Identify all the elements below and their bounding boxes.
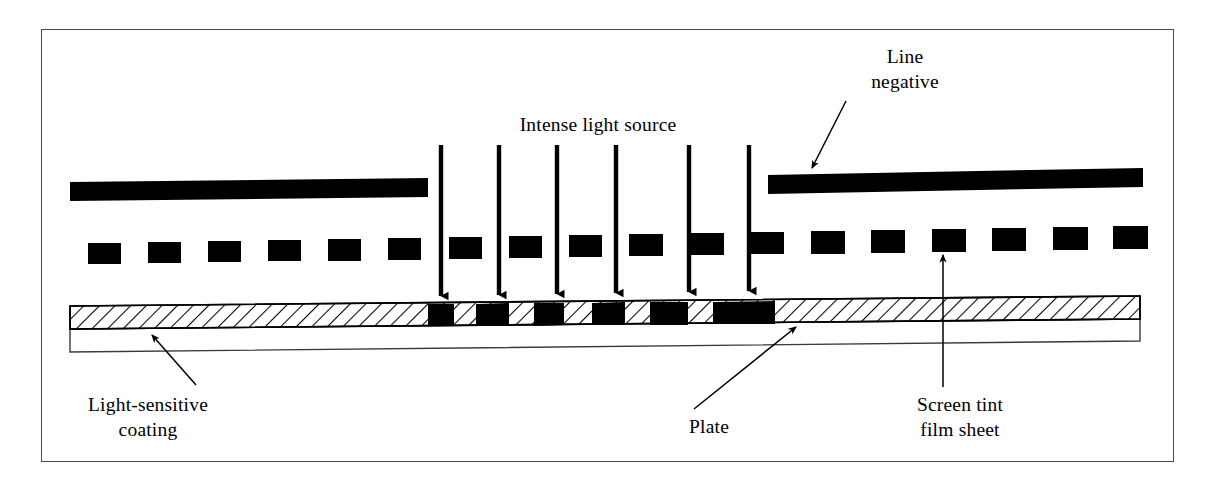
exposed-segment xyxy=(592,302,625,325)
screen-tint-dash xyxy=(569,235,602,257)
screen-tint-dash xyxy=(208,241,241,262)
label-line-negative: Line negative xyxy=(830,44,980,94)
exposed-segment xyxy=(650,302,688,325)
line-negative-bar-right xyxy=(768,168,1143,194)
light-ray-group xyxy=(441,145,749,296)
label-screen-tint-film-sheet: Screen tint film sheet xyxy=(870,392,1050,442)
diagram-canvas: Intense light source Line negative Light… xyxy=(0,0,1213,499)
line-negative-leader xyxy=(812,101,846,168)
screen-tint-dash xyxy=(811,231,845,254)
exposed-segment xyxy=(428,304,454,326)
screen-tint-dash xyxy=(268,240,301,261)
screen-tint-dash xyxy=(629,234,663,256)
screen-tint-dash xyxy=(88,243,121,264)
screen-tint-dash xyxy=(509,236,542,258)
screen-tint-dash xyxy=(449,237,482,259)
screen-tint-dash xyxy=(1053,227,1088,250)
exposed-segment xyxy=(534,303,564,326)
line-negative-group xyxy=(70,168,1143,201)
screen-tint-dash xyxy=(992,228,1026,251)
screen-tint-dash xyxy=(148,242,181,263)
label-intense-light-source: Intense light source xyxy=(478,112,718,137)
screen-tint-dash xyxy=(690,233,724,255)
label-light-sensitive-coating: Light-sensitive coating xyxy=(48,392,248,442)
screen-tint-dash xyxy=(871,230,905,253)
screen-tint-dash xyxy=(388,238,421,260)
screen-tint-dash xyxy=(1113,226,1148,249)
screen-tint-dash xyxy=(750,232,784,254)
exposed-segment xyxy=(713,301,775,324)
screen-tint-dash xyxy=(328,239,361,261)
line-negative-bar-left xyxy=(70,178,428,201)
screen-tint-dash xyxy=(932,229,966,252)
exposed-segment xyxy=(476,303,509,326)
plate-group xyxy=(70,296,1140,352)
label-plate: Plate xyxy=(659,414,759,439)
